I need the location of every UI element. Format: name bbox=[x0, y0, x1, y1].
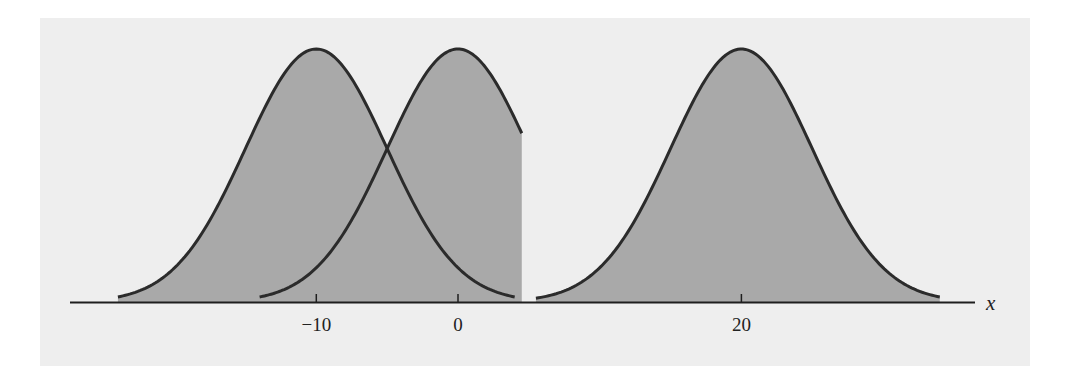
normal-curves-chart: −10020 x bbox=[0, 0, 1076, 376]
tick-label: −10 bbox=[301, 314, 331, 335]
x-axis-label: x bbox=[985, 291, 996, 315]
curve-fills bbox=[118, 49, 940, 302]
tick-label: 0 bbox=[453, 314, 463, 335]
tick-label: 20 bbox=[732, 314, 751, 335]
